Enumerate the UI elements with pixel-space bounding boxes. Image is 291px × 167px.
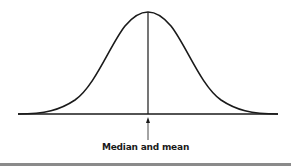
arrow-up-icon bbox=[146, 117, 150, 123]
median-mean-label: Median and mean bbox=[0, 142, 291, 152]
bottom-divider bbox=[0, 163, 291, 166]
